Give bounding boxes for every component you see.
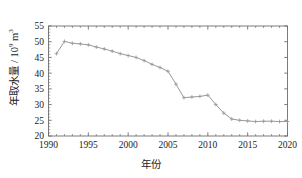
axes-group (49, 26, 288, 136)
data-point-marker (86, 43, 90, 47)
data-point-marker (254, 120, 258, 124)
y-axis-tick-label: 50 (35, 37, 45, 47)
data-point-marker (278, 120, 282, 124)
data-point-marker (110, 49, 114, 53)
ticks-group (49, 26, 288, 136)
x-axis-tick-label: 2015 (238, 140, 257, 150)
data-point-marker (71, 41, 75, 45)
data-series-group (55, 40, 290, 124)
x-axis-tick-label: 2010 (198, 140, 217, 150)
y-axis-tick-label: 35 (35, 84, 45, 94)
x-axis-tick-label: 1990 (39, 140, 58, 150)
x-axis-tick-label: 1995 (79, 140, 98, 150)
chart-figure: 2025303540455055199019952000200520102015… (0, 0, 302, 178)
x-axis-label: 年份 (0, 156, 302, 171)
data-point-marker (142, 59, 146, 63)
x-axis-tick-label: 2005 (159, 140, 178, 150)
y-axis-tick-label: 30 (35, 100, 45, 110)
tick-labels-group: 2025303540455055199019952000200520102015… (35, 21, 298, 149)
data-point-marker (126, 54, 130, 58)
data-point-marker (150, 62, 154, 66)
y-axis-label-unit: m (9, 33, 20, 44)
data-point-marker (246, 119, 250, 123)
data-point-marker (78, 42, 82, 46)
data-point-marker (158, 66, 162, 70)
y-axis-label-unit-exponent: 3 (7, 29, 15, 33)
y-axis-tick-label: 45 (35, 53, 45, 63)
y-axis-label: 年取水量 / 109 m3 (6, 8, 21, 128)
x-axis-tick-label: 2020 (278, 140, 297, 150)
data-point-marker (238, 118, 242, 122)
y-axis-label-exponent: 9 (7, 44, 15, 48)
data-point-marker (262, 119, 266, 123)
data-point-marker (102, 47, 106, 51)
data-point-marker (190, 95, 194, 99)
data-line (56, 41, 287, 121)
data-point-marker (198, 95, 202, 99)
data-point-marker (118, 52, 122, 56)
data-point-marker (94, 45, 98, 49)
data-point-marker (134, 56, 138, 60)
line-chart-plot: 2025303540455055199019952000200520102015… (0, 0, 302, 178)
axis-frame (49, 26, 288, 136)
y-axis-tick-label: 25 (35, 116, 45, 126)
y-axis-tick-label: 40 (35, 69, 45, 79)
y-axis-tick-label: 55 (35, 21, 45, 31)
y-axis-label-text: 年取水量 / 10 (9, 47, 20, 106)
x-axis-tick-label: 2000 (119, 140, 138, 150)
data-point-marker (270, 119, 274, 123)
